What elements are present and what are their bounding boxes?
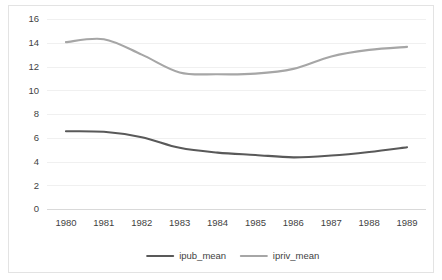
x-axis-tick-label: 1981 (93, 217, 114, 228)
y-axis-tick-label: 2 (34, 180, 39, 191)
line-chart: 0246810121416 19801981198219831984198519… (9, 6, 435, 274)
y-axis-tick-label: 6 (34, 132, 39, 143)
x-axis-tick-label: 1988 (359, 217, 380, 228)
x-axis-tick-label: 1984 (207, 217, 228, 228)
series-line-ipriv_mean (66, 39, 407, 75)
x-axis-tick-label: 1987 (321, 217, 342, 228)
plot-area: 0246810121416 19801981198219831984198519… (9, 6, 435, 274)
x-axis-tick-label: 1982 (131, 217, 152, 228)
y-axis-tick-label: 16 (28, 13, 39, 24)
x-axis-tick-label: 1989 (396, 217, 417, 228)
x-axis-tick-label: 1983 (169, 217, 190, 228)
y-axis-tick-labels: 0246810121416 (28, 13, 39, 214)
y-axis-tick-label: 12 (28, 61, 39, 72)
legend-label-ipub_mean: ipub_mean (179, 250, 226, 261)
series-line-ipub_mean (66, 131, 407, 157)
chart-container: 0246810121416 19801981198219831984198519… (8, 5, 434, 273)
y-axis-tick-label: 4 (34, 156, 39, 167)
x-axis-tick-label: 1986 (283, 217, 304, 228)
x-axis-tick-labels: 1980198119821983198419851986198719881989 (55, 217, 417, 228)
chart-legend: ipub_meanipriv_mean (147, 250, 319, 261)
y-axis-tick-label: 0 (34, 203, 39, 214)
x-axis-tick-label: 1985 (245, 217, 266, 228)
x-axis-tick-label: 1980 (55, 217, 76, 228)
series-group (66, 39, 407, 158)
legend-label-ipriv_mean: ipriv_mean (273, 250, 319, 261)
y-axis-tick-label: 8 (34, 108, 39, 119)
gridlines-group (47, 20, 426, 210)
y-axis-tick-label: 14 (28, 37, 39, 48)
y-axis-tick-label: 10 (28, 85, 39, 96)
